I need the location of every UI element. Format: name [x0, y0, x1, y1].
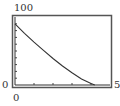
- y-min-label: 0: [2, 80, 8, 90]
- data-curve: [15, 24, 95, 85]
- x-min-label: 0: [13, 93, 19, 103]
- plot-frame: [13, 16, 112, 88]
- axis-ticks: [15, 24, 91, 85]
- x-max-label: 5: [114, 80, 120, 90]
- y-max-label: 100: [14, 3, 33, 13]
- plot-area: [0, 0, 120, 106]
